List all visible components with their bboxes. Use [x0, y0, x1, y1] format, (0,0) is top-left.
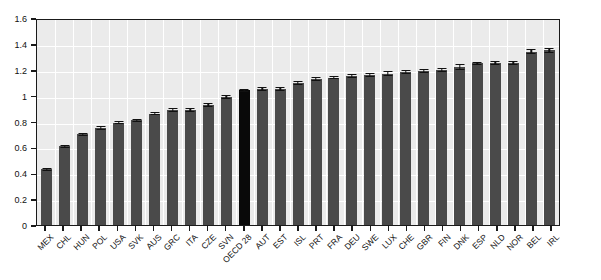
error-bar [168, 108, 177, 112]
error-bar [527, 49, 536, 54]
bar-slot [289, 20, 307, 225]
x-axis-tick-label-text: IRL [545, 232, 561, 248]
x-axis-tick-label-text: LUX [380, 232, 399, 251]
error-bar [347, 74, 356, 78]
error-bar [312, 77, 321, 81]
error-bar [114, 121, 123, 124]
error-bar [276, 87, 285, 91]
bar-slot [182, 20, 200, 225]
bar [436, 70, 447, 225]
x-axis-tick-label-text: POL [90, 232, 109, 251]
bar [95, 128, 106, 225]
x-axis-tick-mark [550, 226, 552, 231]
error-bar [509, 61, 518, 65]
x-axis-tick-mark [406, 226, 408, 231]
error-bar [473, 62, 482, 65]
bar-highlight [239, 90, 250, 225]
y-axis-tick-label: 1.6 [14, 14, 27, 24]
bar [382, 74, 393, 225]
x-axis-tick-label-text: BEL [525, 232, 543, 250]
x-axis-tick-label-text: NLD [488, 232, 507, 251]
bar [149, 114, 160, 225]
error-bar [60, 145, 69, 148]
bar [418, 71, 429, 225]
bar-slot [343, 20, 361, 225]
x-axis-tick-mark [98, 226, 100, 231]
error-bar [383, 71, 392, 76]
error-bar [455, 64, 464, 70]
bar [293, 83, 304, 225]
y-axis-tick-label: 1.4 [14, 40, 27, 50]
y-axis-tick-label: 1 [22, 92, 27, 102]
x-axis-tick-label-text: ITA [184, 232, 200, 248]
y-axis-tick-label: 0 [22, 221, 27, 231]
bar-series [37, 20, 559, 225]
x-axis-tick-mark [370, 226, 372, 231]
error-bar [222, 95, 231, 98]
bar-slot [397, 20, 415, 225]
bar [203, 105, 214, 225]
bar [328, 78, 339, 225]
bar [59, 146, 70, 225]
error-bar [401, 70, 410, 74]
x-axis-tick-mark [117, 226, 119, 231]
error-bar [294, 81, 303, 85]
x-axis-tick-mark [424, 226, 426, 231]
x-axis-tick-mark [62, 226, 64, 231]
x-axis-tick-label-text: EST [271, 232, 290, 251]
bar-slot [379, 20, 397, 225]
error-bar [258, 87, 267, 91]
error-bar [78, 133, 87, 136]
bar-slot [451, 20, 469, 225]
x-axis-tick-label-text: FIN [436, 232, 453, 249]
bar [454, 67, 465, 225]
y-axis-tick-label: 1.2 [14, 66, 27, 76]
bar-slot [325, 20, 343, 225]
x-axis-tick-mark [315, 226, 317, 231]
bar-slot [361, 20, 379, 225]
y-axis-tick-label: 0.2 [14, 195, 27, 205]
bar-slot [433, 20, 451, 225]
bar-slot [110, 20, 128, 225]
x-axis-tick-label-text: CHE [397, 232, 417, 252]
x-axis-tick-mark [442, 226, 444, 231]
bar-slot [253, 20, 271, 225]
bar-slot [128, 20, 146, 225]
bar-slot [38, 20, 56, 225]
x-axis-tick-mark [388, 226, 390, 231]
bar [167, 110, 178, 225]
x-axis-tick-mark [351, 226, 353, 231]
bar-slot [540, 20, 558, 225]
bar-slot [146, 20, 164, 225]
x-axis-tick-label-text: CHL [54, 232, 73, 251]
bar [346, 76, 357, 225]
bar-slot [56, 20, 74, 225]
bar [131, 120, 142, 225]
error-bar [329, 76, 338, 80]
y-axis-tick-label: 0.8 [14, 118, 27, 128]
x-axis-tick-mark [297, 226, 299, 231]
bar-slot [415, 20, 433, 225]
x-axis-tick-label-text: SWE [360, 232, 381, 253]
bar [490, 63, 501, 225]
x-axis-tick-label-text: DNK [451, 232, 471, 252]
bar [472, 63, 483, 225]
bar [185, 110, 196, 225]
bar-slot [199, 20, 217, 225]
bar-chart: 00.20.40.60.811.21.41.6 MEXCHLHUNPOLUSAS… [0, 0, 601, 280]
x-axis-tick-label-text: ISL [292, 232, 308, 248]
x-axis-tick-label-text: GRC [161, 232, 181, 252]
bar-slot [235, 20, 253, 225]
y-axis-tick-label: 0.6 [14, 143, 27, 153]
x-axis-tick-mark [261, 226, 263, 231]
error-bar [186, 108, 195, 111]
error-bar [419, 69, 428, 73]
x-axis-tick-label-text: ESP [470, 232, 489, 251]
bar [400, 72, 411, 225]
x-axis-tick-label-text: PRT [307, 232, 326, 251]
x-axis-tick-label-text: HUN [71, 232, 91, 252]
x-axis-tick-label-text: CZE [199, 232, 218, 251]
x-axis-tick-label-text: USA [108, 232, 127, 251]
x-axis-tick-mark [478, 226, 480, 231]
x-axis-tick-mark [80, 226, 82, 231]
